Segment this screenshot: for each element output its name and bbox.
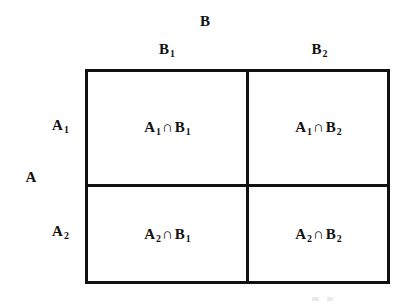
cell-a2-b1-right-base: B bbox=[174, 226, 186, 242]
grid-border-bottom bbox=[85, 281, 390, 284]
cell-a1-b2-left-subscript: 1 bbox=[307, 126, 312, 137]
grid-divider-horizontal bbox=[85, 184, 390, 187]
table-grid: A1∩B1 A1∩B2 A2∩B1 A2∩B2 bbox=[85, 69, 390, 284]
row-header-a2: A2 bbox=[40, 224, 80, 239]
table-cell-a1-b2: A1∩B2 bbox=[249, 120, 387, 135]
row-header-a1-base: A bbox=[51, 117, 64, 133]
scan-artifact-left bbox=[312, 297, 319, 301]
column-header-b2: B2 bbox=[248, 42, 390, 57]
row-group-label-text: A bbox=[26, 169, 37, 185]
cell-a1-b2-right-base: B bbox=[325, 119, 337, 135]
cell-a2-b1-left-base: A bbox=[143, 226, 156, 242]
cell-a1-b1-left-base: A bbox=[143, 119, 156, 135]
cell-a2-b1-operator: ∩ bbox=[161, 226, 174, 242]
cell-a1-b2-operator: ∩ bbox=[312, 119, 325, 135]
column-header-b2-subscript: 2 bbox=[323, 48, 328, 59]
grid-divider-vertical bbox=[246, 69, 249, 284]
column-header-b1: B1 bbox=[85, 42, 248, 57]
row-header-a2-base: A bbox=[51, 223, 64, 239]
row-group-label-a: A bbox=[14, 170, 48, 185]
cell-a2-b1-left-subscript: 2 bbox=[156, 233, 161, 244]
cell-a2-b2-left-subscript: 2 bbox=[307, 233, 312, 244]
row-header-a1: A1 bbox=[40, 118, 80, 133]
cell-a2-b2-operator: ∩ bbox=[312, 226, 325, 242]
cell-a1-b1-right-base: B bbox=[174, 119, 186, 135]
column-group-label-b: B bbox=[0, 14, 410, 29]
column-header-b2-base: B bbox=[311, 41, 323, 57]
cell-a1-b2-right-subscript: 2 bbox=[337, 126, 342, 137]
scan-artifact-right bbox=[327, 297, 333, 301]
grid-border-top bbox=[85, 69, 390, 72]
column-header-b1-subscript: 1 bbox=[170, 48, 175, 59]
table-cell-a1-b1: A1∩B1 bbox=[88, 120, 246, 135]
cell-a2-b2-right-base: B bbox=[325, 226, 337, 242]
row-header-a1-subscript: 1 bbox=[64, 124, 69, 135]
column-group-label-text: B bbox=[200, 13, 210, 29]
table-cell-a2-b1: A2∩B1 bbox=[88, 227, 246, 242]
cell-a1-b1-right-subscript: 1 bbox=[186, 126, 191, 137]
partition-table-figure: B B1 B2 A A1 A2 A1∩B1 A1∩B2 A2∩B1 A2∩B2 bbox=[0, 0, 410, 308]
table-cell-a2-b2: A2∩B2 bbox=[249, 227, 387, 242]
cell-a2-b1-right-subscript: 1 bbox=[186, 233, 191, 244]
column-header-b1-base: B bbox=[158, 41, 170, 57]
cell-a1-b1-left-subscript: 1 bbox=[156, 126, 161, 137]
row-header-a2-subscript: 2 bbox=[64, 230, 69, 241]
grid-border-left bbox=[85, 69, 88, 284]
cell-a2-b2-left-base: A bbox=[294, 226, 307, 242]
grid-border-right bbox=[387, 69, 390, 284]
cell-a2-b2-right-subscript: 2 bbox=[337, 233, 342, 244]
cell-a1-b1-operator: ∩ bbox=[161, 119, 174, 135]
cell-a1-b2-left-base: A bbox=[294, 119, 307, 135]
